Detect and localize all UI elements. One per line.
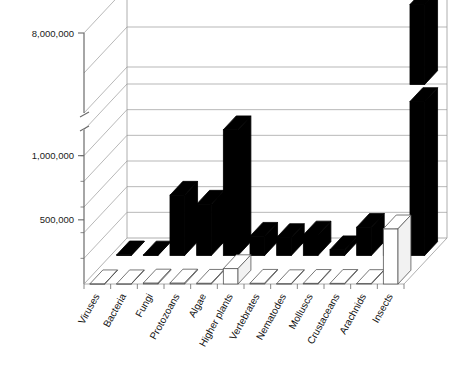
bar-front-face	[410, 101, 425, 255]
gridline-depth-3	[84, 135, 127, 181]
bar-side-face	[425, 88, 438, 256]
bar-back-insects-upper	[410, 0, 438, 84]
bar-side-face	[425, 0, 438, 84]
bar-back-fungi	[170, 181, 198, 255]
x-axis-category-label: Viruses	[76, 292, 102, 326]
bars-group	[90, 0, 438, 284]
y-axis-tick-label: 500,000	[40, 214, 74, 225]
gridline-depth-4	[84, 110, 127, 156]
x-axis-category-label: Algae	[186, 291, 208, 319]
y-axis	[78, 33, 89, 284]
bar-back-insects-lower	[410, 88, 438, 256]
x-axis-labels: VirusesBacteriaFungiProtozoansAlgaeHighe…	[76, 291, 395, 348]
x-axis-category-label: Bacteria	[101, 291, 129, 329]
bar-back-algae	[223, 116, 251, 256]
y-axis-tick-label: 1,000,000	[32, 150, 74, 161]
bar-front-face	[277, 238, 292, 256]
x-axis-category-label: Arachnids	[337, 292, 368, 336]
bar-front-face	[410, 4, 425, 84]
gridline-depth-5	[84, 84, 127, 130]
y-axis-labels: 8,000,0001,000,000500,000	[32, 28, 74, 226]
gridline-depth-7	[84, 0, 127, 33]
bar-front-face	[223, 269, 238, 284]
bar-front-face	[330, 250, 345, 256]
chart-canvas: 8,000,0001,000,000500,000 VirusesBacteri…	[0, 0, 459, 387]
gridline-depth-6	[84, 67, 127, 113]
x-axis-category-label: Molluscs	[286, 292, 314, 331]
gridline-depth-2	[84, 161, 127, 207]
gridline-depth-8	[84, 27, 127, 73]
bar-chart-3d: 8,000,0001,000,000500,000 VirusesBacteri…	[0, 0, 459, 387]
gridline-depth-1	[84, 187, 127, 233]
x-axis-category-label: Fungi	[133, 292, 155, 319]
bar-front-face	[357, 227, 372, 255]
bar-front-face	[250, 236, 265, 255]
bar-front-face	[303, 235, 318, 256]
bar-front-insects	[383, 215, 411, 284]
bar-side-face	[238, 116, 251, 256]
x-axis-category-label: Insects	[370, 292, 395, 325]
bar-back-protozoans	[197, 190, 225, 255]
bar-front-face	[223, 130, 238, 256]
y-axis-tick-label: 8,000,000	[32, 28, 74, 39]
bar-front-face	[170, 195, 185, 255]
bar-front-face	[383, 229, 398, 284]
bar-front-face	[197, 204, 212, 255]
